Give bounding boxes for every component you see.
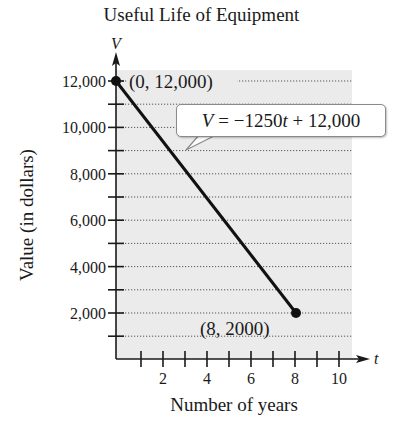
y-tick-label: 2,000 <box>70 305 106 322</box>
y-tick-labels: 12,000 10,000 8,000 6,000 4,000 2,000 <box>62 73 106 322</box>
y-axis-variable: V <box>111 35 123 52</box>
equation-variable: V <box>202 110 214 131</box>
data-point-start <box>111 76 121 86</box>
point-label-end: (8, 2000) <box>200 318 270 340</box>
equation-constant: + 12,000 <box>288 110 360 131</box>
y-tick-label: 12,000 <box>62 73 106 90</box>
x-tick-labels: 2 4 6 8 10 <box>159 370 347 387</box>
data-point-end <box>291 308 301 318</box>
x-axis-variable: t <box>374 350 379 367</box>
x-axis-title: Number of years <box>116 394 352 416</box>
equation-coefficient: = −1250 <box>213 110 282 131</box>
y-tick-label: 8,000 <box>70 166 106 183</box>
x-tick-label: 6 <box>247 370 255 387</box>
x-tick-label: 2 <box>159 370 167 387</box>
x-tick-label: 8 <box>291 370 299 387</box>
x-tick-label: 10 <box>331 370 347 387</box>
chart-plot: V 12,000 10,000 8,000 6,000 4,000 2,000 … <box>0 0 403 433</box>
x-tick-label: 4 <box>203 370 211 387</box>
y-tick-label: 4,000 <box>70 259 106 276</box>
equation-callout: V = −1250t + 12,000 <box>176 104 386 137</box>
y-tick-label: 10,000 <box>62 119 106 136</box>
point-label-start: (0, 12,000) <box>129 71 213 93</box>
y-tick-label: 6,000 <box>70 212 106 229</box>
